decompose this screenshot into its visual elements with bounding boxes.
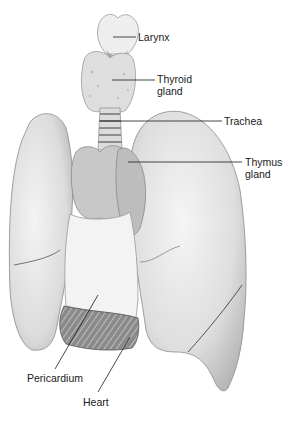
right-lung — [131, 111, 247, 391]
anatomy-illustration — [0, 0, 297, 428]
label-pericardium: Pericardium — [27, 372, 83, 384]
label-larynx: Larynx — [138, 31, 170, 43]
pericardium — [65, 212, 138, 318]
label-thyroid-gland: Thyroid gland — [157, 73, 192, 97]
thyroid-gland — [81, 52, 135, 113]
larynx — [97, 14, 138, 54]
label-trachea: Trachea — [224, 115, 262, 127]
label-heart: Heart — [83, 396, 109, 408]
label-thymus-gland: Thymus gland — [245, 156, 282, 180]
